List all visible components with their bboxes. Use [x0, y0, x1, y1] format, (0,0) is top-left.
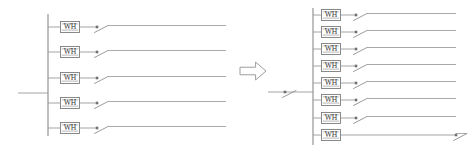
right-switch-4[interactable] [354, 65, 368, 72]
left-switch-3[interactable] [95, 77, 109, 84]
diagram-canvas: WHWHWHWHWHWHWHWHWHWHWHWHWH [0, 0, 475, 153]
right-switch-7[interactable] [354, 117, 368, 124]
meter-label-3: WH [64, 73, 77, 82]
right-meter-7: WH [322, 113, 341, 124]
meter-label-5: WH [325, 78, 338, 87]
switch-pivot [96, 127, 99, 130]
left-meter-5: WH [61, 123, 80, 134]
meter-label-7: WH [325, 113, 338, 122]
right-switch-5[interactable] [354, 82, 368, 89]
switch-pivot [96, 102, 99, 105]
switch-pivot [96, 77, 99, 80]
right-meter-2: WH [322, 27, 341, 38]
switch-pivot [355, 31, 358, 34]
switch-pivot [355, 82, 358, 85]
right-panel: WHWHWHWHWHWHWHWH [268, 8, 467, 145]
meter-label-1: WH [64, 22, 77, 31]
right-switch-2[interactable] [354, 31, 368, 38]
left-feeder-2: WH [48, 47, 226, 58]
right-feeder-4: WH [313, 61, 456, 72]
switch-pivot [355, 65, 358, 68]
switch-pivot [355, 99, 358, 102]
right-meter-4: WH [322, 61, 341, 72]
switch-pivot [96, 51, 99, 54]
left-meter-3: WH [61, 73, 80, 84]
switch-pivot [355, 117, 358, 120]
switch-pivot [96, 26, 99, 29]
left-switch-5[interactable] [95, 127, 109, 134]
switch-pivot [355, 14, 358, 17]
left-meter-2: WH [61, 47, 80, 58]
meter-label-4: WH [64, 98, 77, 107]
right-meter-1: WH [322, 10, 341, 21]
right-switch-6[interactable] [354, 99, 368, 106]
right-switch-1[interactable] [354, 14, 368, 21]
left-switch-4[interactable] [95, 102, 109, 109]
right-feeder-1: WH [313, 10, 456, 21]
left-feeder-5: WH [48, 123, 226, 134]
meter-label-8: WH [325, 130, 338, 139]
left-switch-1[interactable] [95, 26, 109, 33]
left-meter-4: WH [61, 98, 80, 109]
right-meter-3: WH [322, 44, 341, 55]
transform-arrow-icon [240, 62, 266, 80]
left-feeder-1: WH [48, 22, 226, 33]
meter-label-2: WH [64, 47, 77, 56]
left-feeder-4: WH [48, 98, 226, 109]
meter-label-1: WH [325, 10, 338, 19]
meter-label-4: WH [325, 61, 338, 70]
meter-label-2: WH [325, 27, 338, 36]
right-meter-6: WH [322, 95, 341, 106]
right-meter-8: WH [322, 130, 341, 141]
single-line-diagram: WHWHWHWHWHWHWHWHWHWHWHWHWH [0, 0, 475, 153]
right-feeder-5: WH [313, 78, 456, 89]
meter-label-3: WH [325, 44, 338, 53]
meter-label-5: WH [64, 123, 77, 132]
right-feeder-2: WH [313, 27, 456, 38]
left-panel: WHWHWHWHWH [18, 14, 226, 136]
right-switch-8[interactable] [454, 134, 468, 141]
right-feeder-7: WH [313, 113, 456, 124]
right-meter-5: WH [322, 78, 341, 89]
right-feeder-3: WH [313, 44, 456, 55]
switch-pivot [455, 134, 458, 137]
left-feeder-3: WH [48, 73, 226, 84]
left-switch-2[interactable] [95, 51, 109, 58]
right-switch-3[interactable] [354, 48, 368, 55]
switch-pivot [355, 48, 358, 51]
right-feeder-6: WH [313, 95, 456, 106]
switch-pivot [284, 91, 287, 94]
right-feeder-8: WH [313, 130, 467, 141]
left-meter-1: WH [61, 22, 80, 33]
meter-label-6: WH [325, 95, 338, 104]
